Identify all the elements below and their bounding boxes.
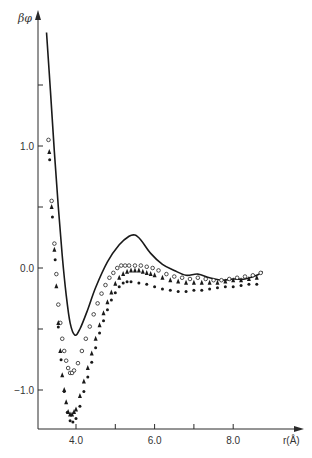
filled-triangle-marker — [168, 277, 172, 282]
x-tick-label: 4.0 — [69, 435, 83, 446]
filled-circle-marker — [94, 346, 97, 349]
open-circle-marker — [151, 266, 155, 270]
y-axis-arrow-icon — [35, 10, 41, 20]
open-circle-marker — [119, 264, 123, 268]
open-circle-marker — [127, 264, 131, 268]
filled-triangle-marker — [129, 267, 133, 272]
filled-triangle-marker — [98, 322, 102, 327]
filled-circle-marker — [224, 285, 227, 288]
filled-circle-marker — [110, 299, 113, 302]
filled-circle-marker — [86, 375, 89, 378]
filled-triangle-marker — [102, 310, 106, 315]
filled-circle-marker — [161, 288, 164, 291]
filled-triangle-marker — [176, 278, 180, 283]
y-tick-label: −1.0 — [14, 385, 34, 396]
filled-triangle-marker — [90, 350, 94, 355]
filled-triangle-marker — [64, 399, 68, 404]
filled-circle-marker — [75, 417, 78, 420]
filled-circle-marker — [57, 325, 60, 328]
filled-circle-marker — [102, 319, 105, 322]
filled-triangle-marker — [125, 269, 129, 274]
y-axis-label: βφ — [17, 12, 32, 25]
open-circle-marker — [115, 266, 119, 270]
series-marker-filled-triangle — [47, 149, 259, 416]
open-circle-marker — [220, 278, 224, 282]
filled-triangle-marker — [141, 269, 145, 274]
filled-circle-marker — [71, 421, 74, 424]
filled-triangle-marker — [117, 275, 121, 280]
filled-triangle-marker — [86, 365, 90, 370]
filled-circle-marker — [122, 281, 125, 284]
filled-circle-marker — [192, 289, 195, 292]
filled-circle-marker — [63, 390, 66, 393]
open-circle-marker — [196, 276, 200, 280]
filled-circle-marker — [208, 288, 211, 291]
open-circle-marker — [157, 269, 161, 273]
open-circle-marker — [259, 271, 263, 275]
filled-circle-marker — [82, 390, 85, 393]
filled-triangle-marker — [153, 272, 157, 277]
filled-triangle-marker — [121, 271, 125, 276]
open-circle-marker — [251, 274, 255, 278]
open-circle-marker — [243, 275, 247, 279]
open-circle-marker — [204, 277, 208, 281]
filled-triangle-marker — [54, 283, 58, 288]
open-circle-marker — [172, 275, 176, 279]
filled-triangle-marker — [109, 289, 113, 294]
open-circle-marker — [145, 265, 149, 269]
open-circle-marker — [235, 276, 239, 280]
y-tick-label: 0.0 — [20, 263, 34, 274]
chart-canvas: 1.00.0−1.04.06.08.0βφr(Å) — [0, 0, 312, 458]
filled-circle-marker — [255, 283, 258, 286]
open-circle-marker — [76, 361, 80, 365]
open-circle-marker — [212, 278, 216, 282]
filled-circle-marker — [98, 332, 101, 335]
filled-triangle-marker — [149, 271, 153, 276]
open-circle-marker — [88, 325, 92, 329]
y-tick-label: 1.0 — [20, 141, 34, 152]
open-circle-marker — [55, 272, 59, 276]
filled-triangle-marker — [74, 407, 78, 412]
filled-triangle-marker — [105, 299, 109, 304]
filled-circle-marker — [48, 158, 51, 161]
filled-circle-marker — [66, 411, 69, 414]
open-circle-marker — [96, 302, 100, 306]
open-circle-marker — [50, 199, 54, 203]
open-circle-marker — [84, 337, 88, 341]
open-circle-marker — [80, 349, 84, 353]
open-circle-marker — [139, 264, 143, 268]
series-layer — [47, 33, 263, 424]
filled-circle-marker — [200, 289, 203, 292]
open-circle-marker — [62, 349, 66, 353]
open-circle-marker — [123, 264, 127, 268]
filled-triangle-marker — [208, 280, 212, 285]
open-circle-marker — [112, 271, 116, 275]
open-circle-marker — [108, 276, 112, 280]
filled-circle-marker — [145, 283, 148, 286]
series-marker-filled-circle — [48, 158, 258, 423]
x-tick-label: 8.0 — [226, 435, 240, 446]
open-circle-marker — [66, 366, 70, 370]
filled-triangle-marker — [145, 270, 149, 275]
filled-circle-marker — [69, 419, 72, 422]
open-circle-marker — [180, 276, 184, 280]
filled-circle-marker — [126, 280, 129, 283]
filled-circle-marker — [130, 280, 133, 283]
filled-circle-marker — [118, 285, 121, 288]
open-circle-marker — [47, 138, 51, 142]
filled-triangle-marker — [113, 281, 117, 286]
filled-triangle-marker — [52, 247, 56, 252]
labels-layer: 1.00.0−1.04.06.08.0βφr(Å) — [14, 12, 299, 446]
filled-triangle-marker — [192, 280, 196, 285]
filled-triangle-marker — [137, 267, 141, 272]
x-axis-label: r(Å) — [283, 434, 300, 446]
open-circle-marker — [165, 272, 169, 276]
filled-triangle-marker — [200, 280, 204, 285]
filled-circle-marker — [232, 285, 235, 288]
filled-circle-marker — [153, 285, 156, 288]
open-circle-marker — [227, 277, 231, 281]
filled-triangle-marker — [82, 378, 86, 383]
filled-triangle-marker — [78, 393, 82, 398]
filled-circle-marker — [169, 289, 172, 292]
filled-triangle-marker — [60, 372, 64, 377]
